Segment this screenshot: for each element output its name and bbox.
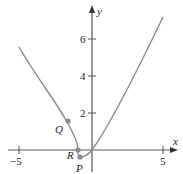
y-axis-arrow-icon xyxy=(89,5,95,13)
chart: y x −5 5 6 4 2 Q R P xyxy=(0,0,183,174)
point-r-marker xyxy=(75,147,80,152)
y-axis-label: y xyxy=(96,5,102,17)
x-axis-label: x xyxy=(172,135,178,147)
point-q-marker xyxy=(65,118,70,123)
tick-label-y-4: 4 xyxy=(80,70,86,82)
point-r-label: R xyxy=(66,149,74,161)
point-q-label: Q xyxy=(55,123,63,135)
point-p-label: P xyxy=(75,162,83,174)
tick-label-y-6: 6 xyxy=(80,33,86,45)
curve-right-branch xyxy=(92,17,163,150)
tick-label-y-2: 2 xyxy=(80,107,86,119)
x-axis xyxy=(8,146,178,154)
curve-left-branch xyxy=(19,47,78,150)
point-p-marker xyxy=(77,154,82,159)
tick-label-x-neg5: −5 xyxy=(10,155,22,167)
tick-label-x-5: 5 xyxy=(160,155,166,167)
x-axis-arrow-icon xyxy=(170,147,178,153)
